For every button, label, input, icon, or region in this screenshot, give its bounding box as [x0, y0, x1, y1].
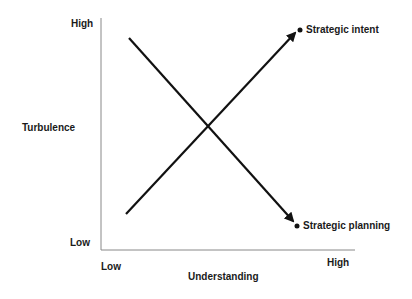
strategic-planning-label: Strategic planning [303, 220, 390, 232]
strategic-intent-arrow [126, 33, 295, 214]
strategic-planning-dot [295, 224, 300, 229]
y-axis-high-label: High [71, 18, 93, 30]
x-axis-low-label: Low [101, 261, 121, 273]
y-axis-low-label: Low [70, 237, 90, 249]
strategic-intent-label: Strategic intent [306, 24, 379, 36]
strategic-intent-dot [298, 28, 303, 33]
y-axis-title: Turbulence [22, 122, 75, 134]
x-axis-high-label: High [327, 257, 349, 269]
diagram-canvas [0, 0, 412, 299]
strategic-planning-arrow [129, 38, 293, 221]
x-axis-title: Understanding [188, 271, 259, 283]
